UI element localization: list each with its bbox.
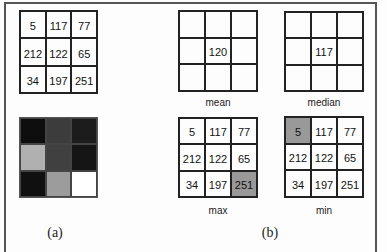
grid-cell [337, 65, 363, 91]
grid-cell: 212 [179, 144, 205, 170]
grid-cell [337, 38, 363, 64]
grid-cell: 77 [231, 118, 257, 144]
grid-cell [337, 12, 363, 38]
grid-cell: 117 [311, 117, 337, 144]
grid-cell: 34 [285, 170, 311, 197]
grid-cell: 197 [46, 66, 72, 93]
grid-cell: 251 [337, 170, 363, 197]
grid-cell: 77 [71, 11, 97, 38]
input-matrix-grid: 5117772121226534197251 [19, 10, 98, 94]
grid-cell [311, 65, 337, 91]
grid-cell [46, 118, 72, 144]
grid-cell [71, 144, 97, 170]
grid-cell [46, 144, 72, 170]
grid-cell [311, 12, 337, 38]
grid-cell [20, 144, 46, 170]
grid-cell [20, 171, 46, 197]
grid-cell [205, 64, 231, 91]
grid-cell: 212 [20, 38, 46, 65]
max-label: max [178, 205, 258, 216]
grid-cell: 34 [20, 66, 46, 93]
grid-cell [179, 11, 205, 38]
grid-cell: 117 [205, 118, 231, 144]
grid-cell: 197 [311, 170, 337, 197]
grid-cell [179, 64, 205, 91]
caption-b: (b) [255, 225, 285, 241]
grid-cell: 122 [46, 38, 72, 65]
grid-cell: 251 [71, 66, 97, 93]
grid-cell [285, 12, 311, 38]
grid-cell: 65 [231, 144, 257, 170]
grid-cell: 120 [205, 38, 231, 65]
grid-cell: 65 [337, 144, 363, 171]
min-grid: 5117772121226534197251 [284, 116, 364, 198]
grid-cell: 65 [71, 38, 97, 65]
grid-cell [205, 11, 231, 38]
grid-cell: 77 [337, 117, 363, 144]
grid-cell: 5 [179, 118, 205, 144]
grid-cell [285, 38, 311, 64]
mean-label: mean [178, 97, 258, 108]
grid-cell [46, 171, 72, 197]
caption-a: (a) [40, 225, 70, 241]
grid-cell: 117 [311, 38, 337, 64]
grid-cell [231, 11, 257, 38]
grid-cell [231, 38, 257, 65]
grid-cell [71, 171, 97, 197]
grid-cell: 5 [20, 11, 46, 38]
mean-grid: 120 [178, 10, 258, 92]
grid-cell: 34 [179, 171, 205, 197]
median-grid: 117 [284, 11, 364, 92]
grid-cell [179, 38, 205, 65]
grayscale-image-grid [19, 117, 98, 198]
grid-cell: 117 [46, 11, 72, 38]
max-grid: 5117772121226534197251 [178, 117, 258, 198]
grid-cell [285, 65, 311, 91]
grid-cell [20, 118, 46, 144]
grid-cell: 212 [285, 144, 311, 171]
grid-cell [231, 64, 257, 91]
grid-cell: 197 [205, 171, 231, 197]
grid-cell: 251 [231, 171, 257, 197]
grid-cell: 5 [285, 117, 311, 144]
grid-cell: 122 [311, 144, 337, 171]
grid-cell [71, 118, 97, 144]
min-label: min [284, 205, 364, 216]
median-label: median [284, 97, 364, 108]
grid-cell: 122 [205, 144, 231, 170]
